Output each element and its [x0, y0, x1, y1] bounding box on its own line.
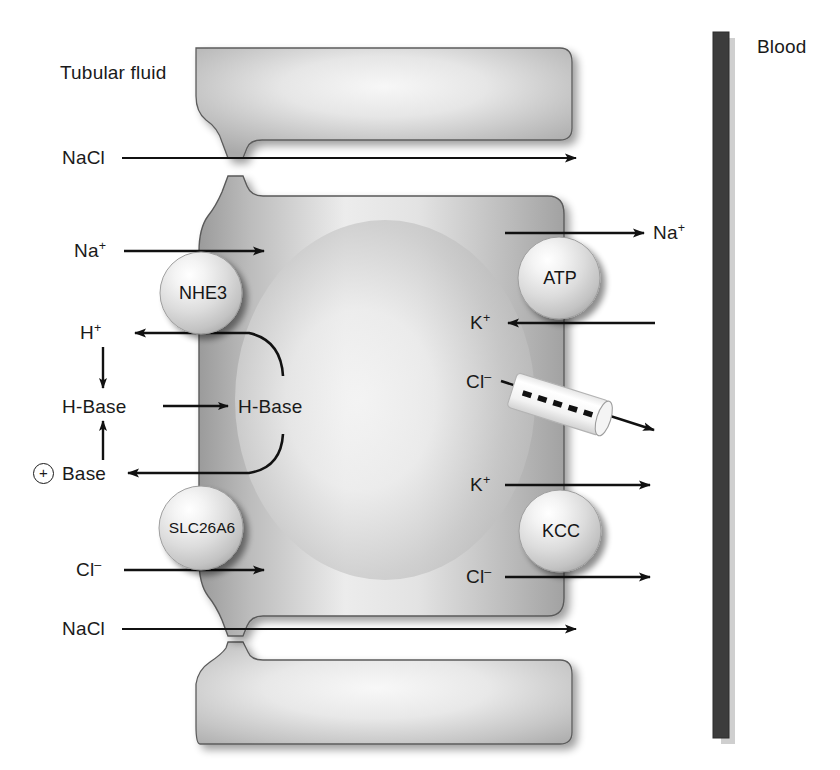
transporter-atp-pump[interactable] [518, 237, 600, 319]
cl-channel-text: Cl [466, 371, 484, 392]
tubular-fluid-label: Tubular fluid [60, 62, 166, 84]
hbase-inside-label: H-Base [238, 396, 303, 418]
transporter-kcc[interactable] [519, 490, 601, 572]
cl-apical-label: Cl– [76, 559, 102, 581]
cl-channel-label: Cl– [466, 371, 492, 393]
upper-neighbor-cell [196, 48, 572, 158]
cl-channel-charge: – [484, 370, 491, 384]
k-basolateral-in-label: K+ [470, 312, 490, 334]
na-apical-label: Na+ [74, 240, 106, 262]
cell-transport-diagram [0, 0, 840, 770]
diagram-canvas: Tubular fluid Blood NaCl NaCl Na+ H+ H-B… [0, 0, 840, 770]
lower-neighbor-cell [196, 642, 572, 744]
transporter-slc26a6[interactable] [159, 486, 243, 570]
cl-kcc-label: Cl– [466, 566, 492, 588]
k-kcc-label: K+ [470, 474, 490, 496]
k-basolateral-in-text: K [470, 312, 483, 333]
na-basolateral-text: Na [653, 222, 678, 243]
h-apical-label: H+ [80, 322, 101, 344]
nacl-top-label: NaCl [62, 147, 105, 169]
cl-kcc-text: Cl [466, 566, 484, 587]
blood-label: Blood [757, 36, 807, 58]
k-basolateral-in-charge: + [483, 311, 491, 325]
k-kcc-charge: + [483, 473, 491, 487]
base-charge-badge: + [33, 463, 54, 484]
na-apical-charge: + [99, 239, 107, 253]
transporter-nhe3[interactable] [160, 252, 242, 334]
na-basolateral-label: Na+ [653, 222, 685, 244]
k-kcc-text: K [470, 474, 483, 495]
base-outside-label: Base [62, 463, 106, 485]
nacl-bottom-label: NaCl [62, 618, 105, 640]
cl-apical-charge: – [94, 558, 101, 572]
cl-kcc-charge: – [484, 565, 491, 579]
na-basolateral-charge: + [678, 221, 686, 235]
cl-apical-text: Cl [76, 559, 94, 580]
hbase-outside-label: H-Base [62, 396, 127, 418]
h-apical-text: H [80, 322, 94, 343]
h-apical-charge: + [94, 321, 102, 335]
blood-vessel-bar [713, 32, 735, 744]
na-apical-text: Na [74, 240, 99, 261]
